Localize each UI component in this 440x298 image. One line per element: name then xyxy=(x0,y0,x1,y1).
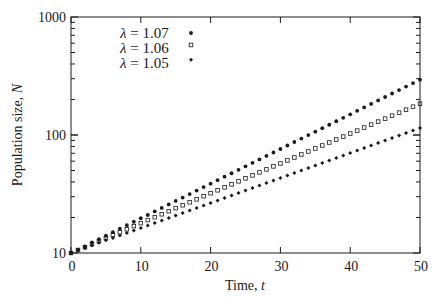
data-point xyxy=(369,102,373,106)
data-point xyxy=(132,229,136,233)
data-point xyxy=(195,206,199,210)
data-point xyxy=(383,95,387,99)
data-point xyxy=(327,141,331,145)
legend-marker-filled-diamond xyxy=(189,58,193,62)
data-point xyxy=(188,200,192,204)
data-point xyxy=(355,109,359,113)
data-point xyxy=(348,132,352,136)
data-point xyxy=(292,171,296,175)
data-point xyxy=(195,198,199,202)
data-point xyxy=(244,177,248,181)
data-point xyxy=(209,191,213,195)
data-point xyxy=(230,194,234,198)
data-point xyxy=(160,218,164,222)
data-point xyxy=(376,120,380,124)
data-point xyxy=(257,184,261,188)
y-tick-label-1000: 1000 xyxy=(38,10,66,25)
data-point xyxy=(209,182,213,186)
data-point xyxy=(188,209,192,213)
data-point xyxy=(279,147,283,151)
legend-marker-filled-circle xyxy=(189,31,193,35)
data-point xyxy=(146,213,150,217)
data-point xyxy=(390,136,394,140)
data-point xyxy=(348,112,352,116)
data-point xyxy=(390,114,394,118)
data-point xyxy=(258,171,262,175)
data-point xyxy=(300,153,304,157)
data-point xyxy=(314,147,318,151)
data-point xyxy=(167,209,171,213)
data-point xyxy=(411,105,415,109)
data-point xyxy=(327,123,331,127)
data-point xyxy=(160,206,164,210)
x-tick-label-20: 20 xyxy=(205,259,219,274)
series-open-square xyxy=(69,102,422,255)
data-point xyxy=(153,215,157,219)
data-point xyxy=(160,212,164,216)
data-point xyxy=(223,186,227,190)
data-point xyxy=(369,123,373,127)
data-point xyxy=(174,199,178,203)
y-axis-title: Population size, N xyxy=(10,83,25,186)
data-point xyxy=(265,154,269,158)
data-point xyxy=(313,163,317,167)
data-point xyxy=(237,168,241,172)
data-point xyxy=(306,133,310,137)
data-point xyxy=(209,201,213,205)
data-point xyxy=(230,171,234,175)
data-point xyxy=(313,130,317,134)
data-point xyxy=(216,178,220,182)
data-point xyxy=(334,138,338,142)
data-point xyxy=(411,81,415,85)
data-point xyxy=(285,144,289,148)
data-point xyxy=(404,108,408,112)
data-point xyxy=(390,92,394,96)
data-point xyxy=(272,165,276,169)
data-point xyxy=(223,175,227,179)
data-point xyxy=(362,105,366,109)
data-point xyxy=(286,159,290,163)
data-point xyxy=(292,140,296,144)
data-point xyxy=(307,150,311,154)
data-point xyxy=(397,133,401,137)
data-point xyxy=(404,131,408,135)
legend: λ = 1.07 λ = 1.06 λ = 1.05 xyxy=(119,25,193,71)
data-point xyxy=(202,185,206,189)
data-point xyxy=(362,126,366,130)
data-point xyxy=(216,198,220,202)
data-point xyxy=(181,203,185,207)
data-point xyxy=(348,151,352,155)
data-point xyxy=(132,224,136,228)
series-filled-diamond xyxy=(69,126,422,255)
data-point xyxy=(250,186,254,190)
data-point xyxy=(153,221,157,225)
data-point xyxy=(195,189,199,193)
data-point xyxy=(278,176,282,180)
data-point xyxy=(181,196,185,200)
data-point xyxy=(306,166,310,170)
data-point xyxy=(139,216,143,220)
data-point xyxy=(118,227,122,231)
data-point xyxy=(418,78,422,82)
data-point xyxy=(376,99,380,103)
data-point xyxy=(139,221,143,225)
y-tick-label-10: 10 xyxy=(52,246,66,261)
data-point xyxy=(237,180,241,184)
legend-label-1-06: λ = 1.06 xyxy=(119,40,169,56)
y-tick-label-100: 100 xyxy=(45,128,66,143)
data-point xyxy=(272,151,276,155)
data-point xyxy=(383,117,387,121)
data-point xyxy=(174,213,178,217)
data-point xyxy=(383,138,387,142)
data-point xyxy=(418,126,422,130)
data-points xyxy=(69,78,422,255)
data-point xyxy=(299,169,303,173)
data-point xyxy=(251,161,255,165)
data-point xyxy=(334,119,338,123)
legend-label-1-05: λ = 1.05 xyxy=(119,55,169,71)
data-point xyxy=(327,158,331,162)
data-point xyxy=(181,211,185,215)
data-point xyxy=(202,194,206,198)
data-point xyxy=(341,154,345,158)
x-tick-label-30: 30 xyxy=(274,259,288,274)
